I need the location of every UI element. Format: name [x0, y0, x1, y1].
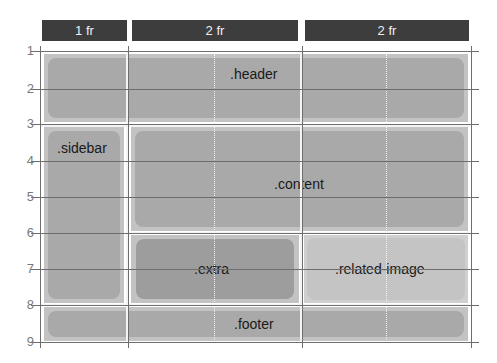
footer-label: .footer: [234, 316, 274, 332]
sidebar-area: .sidebar: [44, 127, 124, 303]
row-label-7: 7: [20, 262, 34, 276]
row-label-5: 5: [20, 190, 34, 204]
content-label: .content: [274, 176, 324, 192]
row-label-8: 8: [20, 298, 34, 312]
row-label-2: 2: [20, 82, 34, 96]
row-gap-3: [40, 125, 470, 127]
dotted-line-col-3: [386, 54, 387, 342]
grid-line-row-7: [31, 269, 479, 270]
grid-line-row-4: [31, 161, 479, 162]
dotted-line-col-2: [214, 54, 215, 342]
grid-line-row-3: [31, 124, 479, 125]
grid-line-row-9: [31, 342, 479, 343]
column-header-1: 1 fr: [42, 20, 127, 41]
header-label: .header: [230, 66, 277, 82]
row-label-9: 9: [20, 335, 34, 349]
column-header-3: 2 fr: [305, 20, 469, 41]
column-header-2: 2 fr: [132, 20, 298, 41]
grid-line-row-2: [31, 89, 479, 90]
sidebar-label: .sidebar: [57, 140, 107, 156]
footer-area: .footer: [44, 307, 468, 341]
row-label-6: 6: [20, 226, 34, 240]
grid-line-row-5: [31, 197, 479, 198]
header-area: .header: [44, 54, 468, 122]
grid-line-row-1: [31, 51, 479, 52]
row-label-1: 1: [20, 44, 34, 58]
row-label-3: 3: [20, 117, 34, 131]
row-label-4: 4: [20, 154, 34, 168]
grid-line-row-8: [31, 305, 479, 306]
grid-line-row-6: [31, 233, 479, 234]
